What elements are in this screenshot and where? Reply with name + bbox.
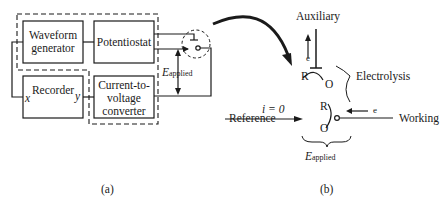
waveform-line-1: Waveform: [23, 29, 83, 42]
recorder-x-input: x: [25, 92, 30, 105]
waveform-generator-label: Waveform generator: [23, 29, 83, 55]
waveform-line-2: generator: [23, 42, 83, 55]
e-symbol: E: [305, 150, 312, 162]
converter-line-3: converter: [94, 105, 154, 118]
recorder-label: Recorder: [23, 84, 83, 97]
species-o-aux: O: [325, 78, 333, 91]
e-subscript: applied: [169, 69, 193, 78]
electrolysis-label: Electrolysis: [356, 70, 410, 83]
panel-a-caption: (a): [101, 183, 114, 196]
recorder-block: [23, 76, 83, 118]
converter-line-1: Current-to-: [94, 79, 154, 92]
species-o-work: O: [320, 122, 328, 135]
species-r-aux: R: [301, 70, 309, 83]
panel-b-caption: (b): [320, 183, 333, 196]
auxiliary-label: Auxiliary: [296, 10, 340, 23]
species-r-work: R: [320, 100, 328, 113]
e-subscript: applied: [312, 153, 336, 162]
electron-aux: e: [306, 52, 310, 65]
working-label: Working: [399, 112, 439, 125]
electron-work: e: [373, 104, 377, 117]
converter-label: Current-to- voltage converter: [94, 79, 154, 118]
recorder-y-input: y: [75, 90, 80, 103]
potentiostat-label: Potentiostat: [94, 36, 154, 49]
e-symbol: E: [162, 66, 169, 78]
converter-line-2: voltage: [94, 92, 154, 105]
e-applied-label-b: Eapplied: [305, 150, 336, 164]
reference-current: i = 0: [262, 103, 284, 116]
e-applied-label-a: Eapplied: [162, 66, 193, 80]
